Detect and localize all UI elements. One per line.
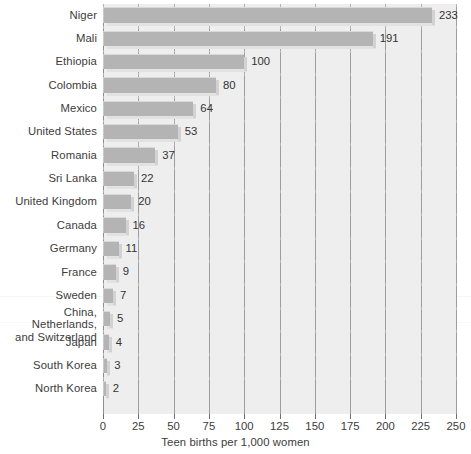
bar[interactable]	[103, 147, 155, 162]
row-tick	[421, 96, 422, 99]
row-tick	[385, 190, 386, 193]
row-tick	[385, 26, 386, 29]
row-tick	[315, 353, 316, 356]
bar[interactable]	[103, 101, 193, 116]
bar-row[interactable]: 2	[103, 378, 456, 401]
row-tick	[174, 143, 175, 146]
row-tick	[138, 26, 139, 29]
row-tick	[456, 283, 457, 286]
bar-row[interactable]: 4	[103, 331, 456, 354]
category-label: Romania	[0, 149, 97, 161]
row-tick	[103, 167, 104, 170]
bar-row[interactable]: 7	[103, 284, 456, 307]
bar[interactable]	[103, 31, 373, 46]
row-tick	[174, 237, 175, 240]
bar-row[interactable]: 37	[103, 144, 456, 167]
bar[interactable]	[103, 124, 178, 139]
row-tick	[280, 143, 281, 146]
row-tick	[209, 73, 210, 76]
bar[interactable]	[103, 241, 119, 256]
row-tick	[138, 96, 139, 99]
bar-value-label: 7	[120, 287, 126, 303]
bar-row[interactable]: 233	[103, 4, 456, 27]
row-tick	[350, 96, 351, 99]
row-tick	[280, 307, 281, 310]
bar-row[interactable]: 9	[103, 261, 456, 284]
row-tick	[350, 353, 351, 356]
row-tick	[385, 260, 386, 263]
row-tick	[103, 190, 104, 193]
category-label: Japan	[0, 336, 97, 348]
bar-row[interactable]: 100	[103, 51, 456, 74]
row-tick	[456, 167, 457, 170]
row-tick	[350, 330, 351, 333]
row-tick	[103, 353, 104, 356]
bar[interactable]	[103, 381, 106, 396]
x-tick-mark-200	[385, 414, 386, 419]
row-tick	[456, 73, 457, 76]
row-tick	[244, 353, 245, 356]
row-tick	[280, 237, 281, 240]
row-tick	[385, 283, 386, 286]
row-tick	[350, 26, 351, 29]
row-tick	[138, 190, 139, 193]
bar[interactable]	[103, 311, 110, 326]
bar-row[interactable]: 11	[103, 238, 456, 261]
row-tick	[315, 237, 316, 240]
row-tick-top	[385, 4, 386, 7]
row-tick	[421, 26, 422, 29]
bar-value-label: 37	[162, 147, 175, 163]
row-tick	[244, 283, 245, 286]
row-tick	[174, 26, 175, 29]
bar-row[interactable]: 22	[103, 168, 456, 191]
x-tick-label-125: 125	[270, 420, 289, 433]
x-tick-label-175: 175	[341, 420, 360, 433]
row-tick	[174, 283, 175, 286]
row-tick	[456, 237, 457, 240]
x-axis-title: Teen births per 1,000 women	[0, 436, 471, 448]
row-tick	[244, 260, 245, 263]
row-tick	[138, 307, 139, 310]
row-tick	[103, 283, 104, 286]
row-tick	[385, 213, 386, 216]
bar-row[interactable]: 16	[103, 214, 456, 237]
row-tick-top	[315, 4, 316, 7]
bar-row[interactable]: 5	[103, 308, 456, 331]
bar[interactable]	[103, 288, 113, 303]
row-tick	[456, 26, 457, 29]
bar[interactable]	[103, 194, 131, 209]
category-label: Niger	[0, 9, 97, 21]
bar[interactable]	[103, 7, 432, 22]
bar-row[interactable]: 191	[103, 27, 456, 50]
row-tick	[280, 260, 281, 263]
bar-row[interactable]: 3	[103, 354, 456, 377]
row-tick	[350, 167, 351, 170]
row-tick	[209, 353, 210, 356]
bar-row[interactable]: 64	[103, 97, 456, 120]
row-tick	[315, 377, 316, 380]
category-label: Ethiopia	[0, 55, 97, 67]
row-tick	[421, 190, 422, 193]
row-tick	[103, 73, 104, 76]
x-tick-mark-100	[244, 414, 245, 419]
row-tick-top	[138, 4, 139, 7]
bar[interactable]	[103, 217, 126, 232]
bar-row[interactable]: 20	[103, 191, 456, 214]
bar[interactable]	[103, 77, 216, 92]
bar[interactable]	[103, 171, 134, 186]
teen-births-bar-chart: NigerMaliEthiopiaColombiaMexicoUnited St…	[0, 0, 471, 454]
row-tick	[385, 377, 386, 380]
bar-row[interactable]: 80	[103, 74, 456, 97]
bar-value-label: 100	[251, 53, 270, 69]
bar[interactable]	[103, 334, 109, 349]
bar-row[interactable]: 53	[103, 121, 456, 144]
row-tick	[209, 167, 210, 170]
x-tick-label-225: 225	[411, 420, 430, 433]
x-tick-label-75: 75	[203, 420, 216, 433]
row-tick	[174, 213, 175, 216]
bar[interactable]	[103, 264, 116, 279]
bar[interactable]	[103, 358, 107, 373]
row-tick	[138, 213, 139, 216]
row-tick	[350, 283, 351, 286]
bar[interactable]	[103, 54, 244, 69]
